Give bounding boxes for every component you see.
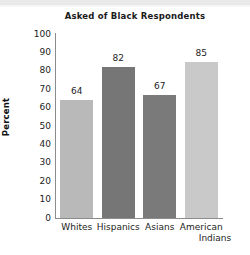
- y-axis-label: Percent: [1, 98, 11, 137]
- y-tick-label: 10: [21, 195, 51, 204]
- chart-title: Asked of Black Respondents: [28, 11, 242, 21]
- bar-value-label: 67: [133, 82, 186, 91]
- y-tick-label: 40: [21, 140, 51, 149]
- bar: [143, 95, 176, 218]
- bar-value-label: 85: [175, 49, 228, 58]
- bar: [102, 67, 135, 218]
- y-tick-label: 70: [21, 85, 51, 94]
- bar-value-label: 64: [50, 87, 103, 96]
- y-tick-label: 50: [21, 122, 51, 131]
- y-tick-label: 100: [21, 30, 51, 39]
- y-tick-label: 60: [21, 103, 51, 112]
- bar-value-label: 82: [92, 54, 145, 63]
- x-tick-label-line2: Indians: [171, 233, 231, 244]
- chart-figure: Asked of Black Respondents Percent 10090…: [0, 0, 250, 255]
- y-tick-label: 20: [21, 177, 51, 186]
- y-tick-label: 90: [21, 48, 51, 57]
- bar: [60, 100, 93, 218]
- x-axis-line: [55, 218, 223, 219]
- y-axis-tick-labels: 1009080706050403020100: [19, 0, 51, 255]
- y-tick-label: 30: [21, 158, 51, 167]
- y-tick-label: 80: [21, 66, 51, 75]
- x-tick-label: AmericanIndians: [171, 222, 231, 244]
- bar: [185, 62, 218, 218]
